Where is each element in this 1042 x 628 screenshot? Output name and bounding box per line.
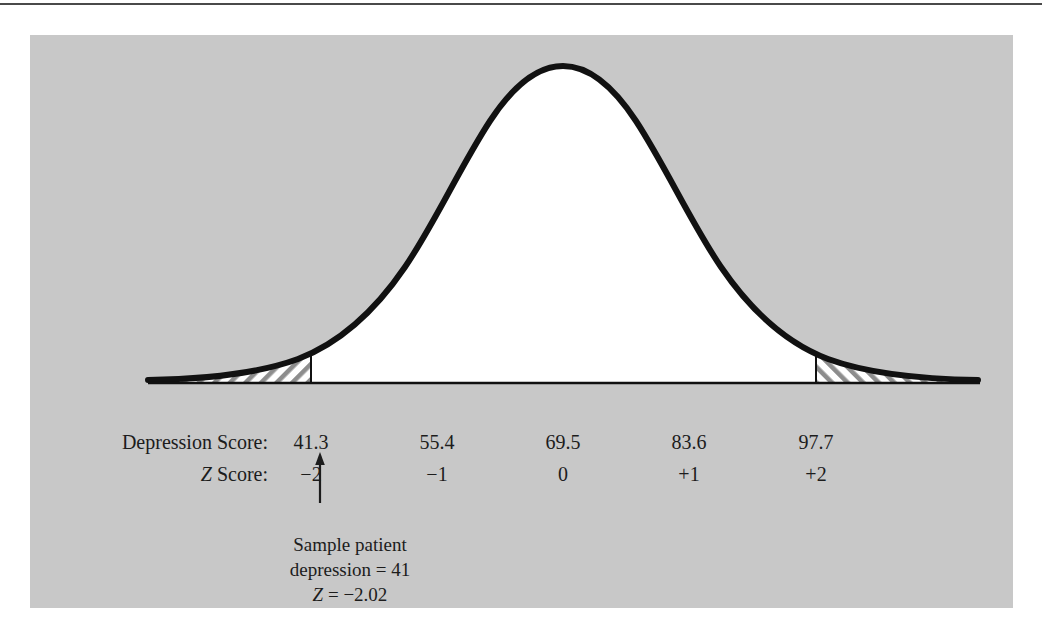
depression-tick-3: 83.6 — [634, 431, 744, 454]
annotation-line-1: Sample patient — [230, 532, 470, 557]
annotation-line-2: depression = 41 — [230, 557, 470, 582]
z-tick-1: −1 — [382, 463, 492, 486]
annotation-line-3: Z = −2.02 — [230, 582, 470, 607]
depression-tick-2: 69.5 — [508, 431, 618, 454]
z-score-row-label: Z Score: — [18, 463, 268, 486]
central-region — [148, 66, 978, 383]
annotation-z-symbol: Z — [313, 584, 324, 605]
depression-tick-1: 55.4 — [382, 431, 492, 454]
sample-patient-annotation: Sample patient depression = 41 Z = −2.02 — [230, 532, 470, 607]
z-tick-3: +1 — [634, 463, 744, 486]
annotation-z-value: = −2.02 — [323, 584, 387, 605]
figure-panel: Depression Score: Z Score: 41.3 55.4 69.… — [30, 35, 1013, 608]
depression-tick-0: 41.3 — [256, 431, 366, 454]
z-tick-0: −2 — [256, 463, 366, 486]
z-tick-4: +2 — [761, 463, 871, 486]
depression-tick-4: 97.7 — [761, 431, 871, 454]
z-tick-2: 0 — [508, 463, 618, 486]
z-score-row-symbol: Z — [201, 463, 212, 485]
depression-score-row-label: Depression Score: — [18, 431, 268, 454]
page-top-rule — [0, 3, 1042, 5]
normal-distribution-chart — [30, 35, 1013, 608]
